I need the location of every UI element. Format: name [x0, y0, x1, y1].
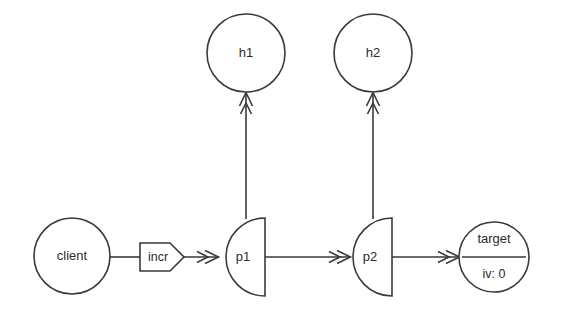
target-label: target — [477, 231, 511, 246]
client-label: client — [57, 248, 88, 263]
p2-label: p2 — [363, 249, 377, 264]
p1-label: p1 — [236, 249, 250, 264]
node-p2[interactable]: p2 — [353, 218, 392, 296]
edge-label-incr: incr — [140, 243, 184, 271]
node-p1[interactable]: p1 — [226, 218, 265, 296]
node-target[interactable]: target iv: 0 — [459, 222, 529, 292]
edge-p2-to-h2 — [367, 93, 380, 220]
edge-p1-to-h1 — [240, 93, 253, 220]
incr-label: incr — [148, 250, 168, 264]
node-h2[interactable]: h2 — [334, 14, 412, 92]
diagram-root: incr client — [0, 0, 562, 314]
node-h1[interactable]: h1 — [207, 14, 285, 92]
target-attribute-label: iv: 0 — [483, 267, 506, 281]
edge-p1-to-p2 — [265, 251, 351, 264]
h1-label: h1 — [239, 45, 253, 60]
edge-p2-to-target — [392, 251, 460, 264]
diagram-canvas: incr client — [0, 0, 562, 314]
node-client[interactable]: client — [34, 218, 110, 294]
h2-label: h2 — [366, 45, 380, 60]
